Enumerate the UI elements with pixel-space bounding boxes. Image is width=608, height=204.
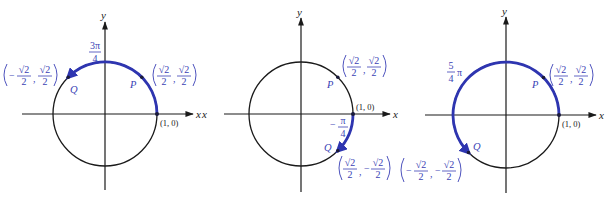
point-p-label: P [531,79,539,90]
svg-text:2: 2 [22,76,27,87]
point-q-coordinates: √2 2 , − √2 2 [339,156,390,180]
svg-text:√2: √2 [40,64,51,75]
svg-text:√2: √2 [556,64,567,75]
svg-text:4: 4 [341,128,346,139]
svg-text:−: − [9,70,15,81]
svg-text:√2: √2 [179,64,190,75]
point-p-coordinates: √2 2 , √2 2 [153,64,196,87]
start-point [351,112,355,116]
svg-text:π: π [340,115,345,126]
svg-text:,: , [173,73,176,84]
svg-text:3π: 3π [90,40,100,51]
point-p [140,75,144,79]
point-q-label: Q [324,142,332,153]
point-q-coordinates: − √2 2 , √2 2 [4,64,57,87]
svg-text:,: , [359,166,362,177]
svg-text:5: 5 [449,60,454,71]
svg-text:2: 2 [447,171,452,182]
svg-text:2: 2 [43,76,48,87]
svg-text:√2: √2 [369,55,380,66]
svg-text:√2: √2 [159,64,170,75]
y-axis-label: y [100,9,106,21]
x-axis-left-label: x [201,108,207,120]
y-axis-label: y [296,6,302,18]
svg-text:,: , [33,73,36,84]
svg-text:√2: √2 [19,64,30,75]
start-point [557,113,561,117]
start-point [155,112,159,116]
svg-text:4: 4 [449,73,454,84]
panel-3: x y (1, 0) P Q 5 4 π √2 2 , √2 2 [401,5,604,193]
svg-text:,: , [430,168,433,179]
x-axis-label: x [598,109,604,121]
svg-text:2: 2 [579,76,584,87]
svg-text:π: π [457,67,462,78]
point-q-coordinates: − √2 2 , − √2 2 [401,158,461,182]
x-axis-label: x [392,108,398,120]
start-point-label: (1, 0) [356,102,375,112]
svg-text:−: − [435,165,441,176]
svg-text:√2: √2 [416,159,427,170]
svg-text:√2: √2 [444,159,455,170]
point-q [336,149,340,153]
unit-circle-figure: x y (1, 0) P Q 3π 4 √2 2 , √2 2 [0,0,608,204]
svg-text:,: , [570,73,573,84]
svg-text:2: 2 [372,67,377,78]
point-p-label: P [129,79,137,90]
point-q-label: Q [473,141,481,152]
point-p-label: P [326,79,334,90]
svg-text:−: − [364,163,370,174]
svg-text:2: 2 [419,171,424,182]
svg-text:−: − [330,119,336,130]
svg-text:,: , [363,64,366,75]
panel-2: x x y (1, 0) P Q − π 4 √2 2 , √2 2 [201,6,398,192]
svg-text:√2: √2 [576,64,587,75]
point-p-coordinates: √2 2 , √2 2 [343,55,386,78]
angle-label: 5 4 π [447,60,462,84]
svg-text:2: 2 [352,67,357,78]
rotation-arc [68,62,157,114]
svg-text:√2: √2 [373,157,384,168]
svg-text:2: 2 [376,169,381,180]
angle-label: 3π 4 [89,40,101,64]
point-q [66,75,70,79]
point-p-coordinates: √2 2 , √2 2 [550,64,593,87]
point-p [336,75,340,79]
svg-text:4: 4 [93,53,98,64]
svg-text:2: 2 [559,76,564,87]
point-p [542,76,546,80]
svg-text:√2: √2 [345,157,356,168]
start-point-label: (1, 0) [562,119,581,129]
svg-text:√2: √2 [349,55,360,66]
point-q-label: Q [70,84,78,95]
svg-text:−: − [406,165,412,176]
panel-1: x y (1, 0) P Q 3π 4 √2 2 , √2 2 [4,9,201,190]
start-point-label: (1, 0) [160,118,179,128]
x-axis-label: x [195,108,201,120]
svg-text:2: 2 [162,76,167,87]
svg-text:2: 2 [182,76,187,87]
y-axis-label: y [501,5,507,17]
point-q [467,151,471,155]
angle-label: − π 4 [330,115,348,139]
svg-text:2: 2 [348,169,353,180]
